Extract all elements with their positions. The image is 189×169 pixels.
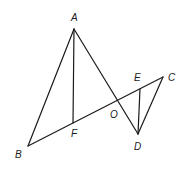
geometry-diagram: A B C D E F O	[0, 0, 189, 169]
segment-CD	[138, 77, 163, 134]
label-O: O	[110, 109, 118, 120]
segment-BC	[28, 77, 163, 146]
segment-ED	[138, 89, 140, 134]
label-C: C	[168, 72, 176, 83]
label-F: F	[71, 128, 78, 139]
label-D: D	[134, 141, 141, 152]
label-B: B	[15, 149, 22, 160]
segment-AF	[73, 29, 74, 123]
label-E: E	[134, 72, 141, 83]
label-A: A	[70, 12, 78, 23]
segment-AB	[28, 29, 74, 146]
